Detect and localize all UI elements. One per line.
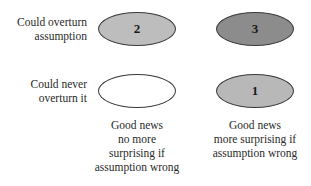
column-label-no-more-surprising: Good news no more surprising if assumpti…: [77, 118, 197, 174]
column-label-more-surprising: Good news more surprising if assumption …: [195, 118, 311, 160]
ellipse-top-left: 2: [98, 12, 176, 46]
row-label-could-never-overturn: Could never overturn it: [30, 77, 87, 105]
ellipse-bottom-left: [98, 74, 176, 108]
ellipse-top-right: 3: [216, 12, 294, 46]
ellipse-value: 3: [252, 21, 259, 37]
ellipse-value: 2: [134, 21, 141, 37]
ellipse-value: 1: [252, 83, 259, 99]
ellipse-bottom-right: 1: [216, 74, 294, 108]
row-label-could-overturn: Could overturn assumption: [17, 15, 87, 43]
